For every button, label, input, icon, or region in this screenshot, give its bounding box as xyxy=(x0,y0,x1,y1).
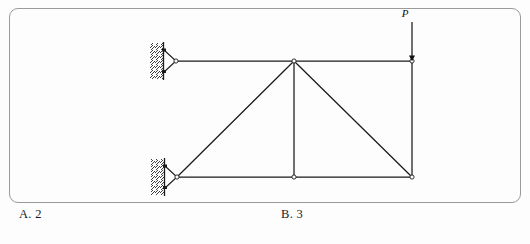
joint-bottom-mid xyxy=(292,175,296,179)
truss-diagram: P xyxy=(0,0,530,205)
upper-left-support xyxy=(150,42,176,80)
answer-options: A. 2 B. 3 C. 4 D. 5 xyxy=(0,205,530,244)
load-label: P xyxy=(401,7,409,19)
lower-support-hatch-icon xyxy=(151,159,164,195)
joint-top-right xyxy=(410,59,414,63)
lower-support-bottom-plate xyxy=(163,186,167,189)
answer-option-b[interactable]: B. 3 xyxy=(281,207,303,222)
truss-members xyxy=(176,61,412,177)
joint-lower-left xyxy=(175,175,179,179)
member-diagonal-right xyxy=(294,61,412,177)
upper-support-bottom-plate xyxy=(162,70,166,73)
answer-option-a[interactable]: A. 2 xyxy=(19,207,42,222)
upper-support-top-plate xyxy=(162,49,166,52)
applied-load-P: P xyxy=(401,7,412,59)
lower-left-support xyxy=(151,158,177,196)
joint-bottom-right xyxy=(410,175,414,179)
member-diagonal-left xyxy=(177,61,294,177)
upper-support-hatch-icon xyxy=(150,43,163,79)
answer-row-2: C. 4 D. 5 xyxy=(0,224,530,243)
joint-apex xyxy=(292,59,296,63)
answer-row-1: A. 2 B. 3 xyxy=(0,205,530,224)
lower-support-top-plate xyxy=(163,165,167,168)
page-root: P A. 2 B. 3 C. 4 D. 5 xyxy=(0,0,530,244)
joint-upper-left xyxy=(174,59,178,63)
